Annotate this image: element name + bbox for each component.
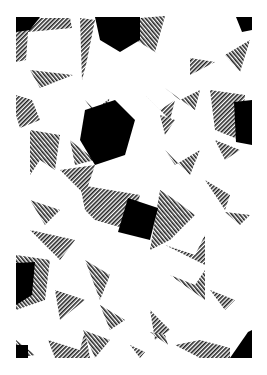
hatched-shapes	[16, 16, 250, 358]
caption	[14, 362, 254, 372]
abstract-artwork	[0, 0, 267, 375]
